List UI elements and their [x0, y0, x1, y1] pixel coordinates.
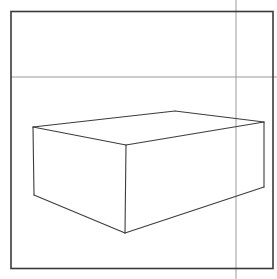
paper-background — [0, 0, 277, 279]
sketch-svg — [0, 0, 277, 279]
drawing-canvas — [0, 0, 277, 279]
